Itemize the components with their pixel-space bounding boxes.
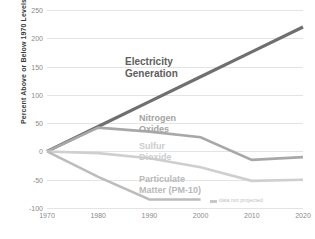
y-tick-label: -50: [33, 176, 43, 183]
emissions-line-chart: Percent Above or Below 1970 Levels 25020…: [0, 0, 315, 239]
x-tick-label: 2000: [193, 212, 209, 219]
x-tick-label: 1970: [39, 212, 55, 219]
series-line: [47, 151, 303, 180]
x-tick-label: 2010: [244, 212, 260, 219]
gridline: [47, 208, 303, 209]
x-tick-label: 1980: [90, 212, 106, 219]
y-tick-label: 250: [31, 7, 43, 14]
series-line: [47, 128, 303, 160]
x-tick-label: 2020: [295, 212, 311, 219]
y-tick-label: 200: [31, 35, 43, 42]
annotation-swatch-icon: [210, 200, 217, 203]
series-lines: [47, 10, 303, 208]
y-tick-label: 100: [31, 91, 43, 98]
y-axis-title: Percent Above or Below 1970 Levels: [20, 0, 27, 137]
x-tick-label: 1990: [142, 212, 158, 219]
y-tick-label: 50: [35, 120, 43, 127]
y-tick-label: 150: [31, 63, 43, 70]
y-tick-label: -100: [29, 205, 43, 212]
plot-area: 250200150100500-50-100 19701980199020002…: [47, 10, 303, 208]
y-tick-label: 0: [39, 148, 43, 155]
series-line: [47, 151, 201, 199]
annotation-text: data not projected: [219, 197, 263, 203]
